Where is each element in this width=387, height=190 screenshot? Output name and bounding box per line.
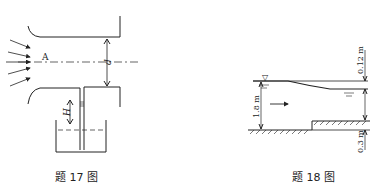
figure-18 [248,50,370,150]
channel-bed [248,121,370,130]
intake-upper-wall [28,16,120,37]
depth-label: 1.8 m [252,95,261,118]
inflow-arrows [6,40,30,86]
step-label: 0.3 m [356,130,365,153]
pipe-lower-wall-right [84,87,120,107]
diagram-canvas: A d H [0,0,387,190]
figure-18-caption: 题 18 图 [292,168,335,184]
point-a-label: A [41,52,49,62]
figure-17 [6,16,138,152]
intake-lower-wall [28,88,80,104]
height-label: H [62,108,72,117]
drop-label: 0.12 m [356,46,365,74]
water-surface-symbol: ▽ [262,73,269,82]
water-surface-profile [253,81,368,89]
diameter-label: d [103,59,113,65]
reservoir-tank [56,120,106,152]
bed-hatching [250,121,366,134]
figure-17-caption: 题 17 图 [55,168,98,184]
